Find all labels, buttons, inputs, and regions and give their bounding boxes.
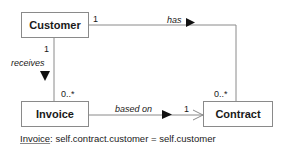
receives-direction-icon [40,71,50,81]
receives-to-multiplicity: 0..* [61,89,75,99]
has-from-multiplicity: 1 [93,14,98,24]
class-name: Customer [29,19,80,31]
has-to-multiplicity: 0..* [214,89,228,99]
has-association-label: has [167,15,182,25]
class-invoice[interactable]: Invoice [21,101,89,127]
based-on-direction-icon [162,110,172,119]
class-name: Contract [215,108,260,120]
has-direction-icon [186,18,195,27]
receives-association-label: receives [11,58,45,68]
based-on-association-label: based on [115,104,152,114]
receives-from-multiplicity: 1 [44,44,49,54]
constraint-context: Invoice [20,133,50,144]
ocl-constraint: Invoice: self.contract.customer = self.c… [20,133,216,144]
class-customer[interactable]: Customer [21,12,89,38]
class-contract[interactable]: Contract [203,101,273,127]
constraint-expression: self.contract.customer = self.customer [53,133,216,144]
class-name: Invoice [36,108,74,120]
based-on-to-multiplicity: 1 [184,104,189,114]
